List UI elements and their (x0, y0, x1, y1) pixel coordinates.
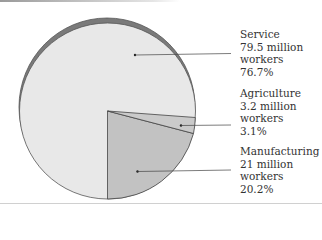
label-agriculture: Agriculture 3.2 million workers 3.1% (240, 87, 301, 137)
label-service: Service 79.5 million workers 76.7% (240, 28, 303, 78)
label-service-name: Service (240, 28, 303, 41)
label-agriculture-percent: 3.1% (240, 125, 301, 138)
label-manufacturing-percent: 20.2% (240, 183, 319, 196)
label-agriculture-count: 3.2 million (240, 100, 301, 113)
label-manufacturing: Manufacturing 21 million workers 20.2% (240, 145, 319, 195)
label-service-unit: workers (240, 53, 303, 66)
label-service-percent: 76.7% (240, 66, 303, 79)
label-manufacturing-count: 21 million (240, 158, 319, 171)
label-manufacturing-name: Manufacturing (240, 145, 319, 158)
label-manufacturing-unit: workers (240, 170, 319, 183)
label-agriculture-name: Agriculture (240, 87, 301, 100)
label-agriculture-unit: workers (240, 112, 301, 125)
bottom-divider (0, 203, 322, 204)
label-service-count: 79.5 million (240, 41, 303, 54)
